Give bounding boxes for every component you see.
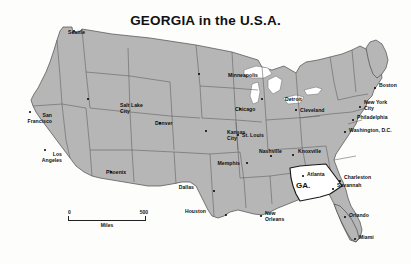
city-label: Denver (155, 121, 173, 127)
scale-bar-line: 0 500 (68, 216, 146, 221)
city-label: New York City (364, 100, 387, 111)
city-label: Orlando (349, 213, 369, 219)
city-label: New Orleans (265, 211, 284, 222)
city-label: Dallas (179, 185, 194, 191)
scale-max-label: 500 (140, 209, 148, 215)
contiguous-us-shape (31, 27, 382, 242)
city-label: Philadelphia (357, 115, 388, 121)
map-landmass (31, 27, 388, 242)
georgia-state-label: GA. (296, 181, 310, 190)
city-label: Seattle (68, 30, 85, 36)
city-label: Savannah (337, 183, 361, 189)
scale-bar: 0 500 Miles (68, 216, 146, 228)
city-label: Salt Lake City (120, 103, 143, 114)
city-label: Cleveland (300, 108, 325, 114)
city-label: Knoxville (298, 149, 321, 155)
city-label: Minneapolis (228, 73, 258, 79)
city-label: Los Angeles (42, 152, 62, 163)
scale-min-label: 0 (68, 209, 71, 215)
city-label: Miami (359, 235, 374, 241)
city-label: St. Louis (242, 133, 264, 139)
city-label: San Francisco (27, 113, 52, 124)
city-label: Detroit (285, 97, 302, 103)
city-label: Phoenix (106, 170, 126, 176)
city-label: Atlanta (307, 172, 325, 178)
city-label: Houston (185, 209, 206, 215)
city-label: Boston (379, 83, 397, 89)
city-label: Chicago (235, 107, 255, 113)
scale-units-label: Miles (68, 222, 146, 228)
us-map-figure: GEORGIA in the U.S.A. (0, 0, 411, 264)
city-label: Washington, D.C. (349, 128, 392, 134)
city-label: Nashville (259, 149, 282, 155)
city-label: Memphis (218, 161, 240, 167)
city-label: Charleston (344, 175, 371, 181)
